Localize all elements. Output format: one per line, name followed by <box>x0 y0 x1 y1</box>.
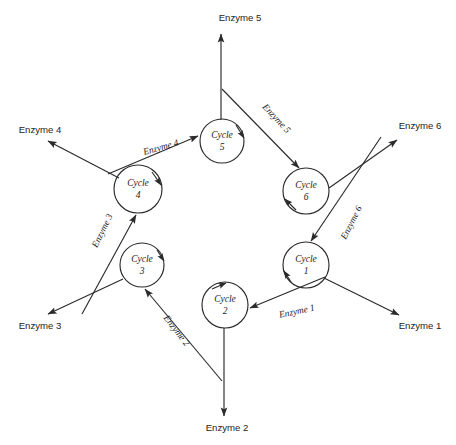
cycle2-label-line2: 2 <box>223 306 228 316</box>
endpoint-label-enzyme5: Enzyme 5 <box>219 12 262 23</box>
node-cycle4[interactable]: Cycle 4 <box>114 165 162 213</box>
cycle2-loop-arrow <box>212 283 226 289</box>
edge-label-enzyme5: Enzyme 5 <box>260 101 293 135</box>
edge-cycle1-to-enzyme1 <box>324 278 399 315</box>
edge-cycle1-to-cycle2 <box>250 277 325 308</box>
edge-label-enzyme1: Enzyme 1 <box>277 303 315 321</box>
cycle1-label-line1: Cycle <box>295 254 317 264</box>
edge-cycle3-to-cycle4 <box>82 215 136 314</box>
cycle3-loop-arrow <box>157 250 164 261</box>
cycle1-loop-arrow <box>284 271 291 282</box>
cycle3-label-line1: Cycle <box>131 254 153 264</box>
cycle6-label-line2: 6 <box>304 192 309 202</box>
cycle5-label-line2: 5 <box>220 142 225 152</box>
edge-label-enzyme4: Enzyme 4 <box>141 137 180 157</box>
cycle4-label-line2: 4 <box>136 190 141 200</box>
edge-label-enzyme6: Enzyme 6 <box>338 204 364 242</box>
cycle5-loop-arrow <box>236 125 244 138</box>
endpoint-labels-group: Enzyme 1 Enzyme 2 Enzyme 3 Enzyme 4 Enzy… <box>19 12 442 433</box>
endpoint-label-enzyme1: Enzyme 1 <box>399 320 442 331</box>
node-cycle1[interactable]: Cycle 1 <box>283 242 329 288</box>
edge-cycle4-to-cycle5 <box>108 136 198 174</box>
cycle2-circle[interactable] <box>202 282 248 328</box>
endpoint-label-enzyme4: Enzyme 4 <box>19 124 62 135</box>
cycle3-label-line2: 3 <box>139 266 145 276</box>
cycle4-label-line1: Cycle <box>127 178 149 188</box>
enzyme-cycle-diagram: Cycle 1 Cycle 2 Cycle 3 Cycle 4 <box>0 0 456 445</box>
cycle6-circle[interactable] <box>283 168 329 214</box>
cycle1-label-line2: 1 <box>304 266 309 276</box>
diagram-canvas: Cycle 1 Cycle 2 Cycle 3 Cycle 4 <box>0 0 456 445</box>
cycle5-label-line1: Cycle <box>211 130 233 140</box>
edge-label-enzyme2: Enzyme 2 <box>161 312 192 348</box>
endpoint-label-enzyme3: Enzyme 3 <box>19 320 62 331</box>
cycle2-label-line1: Cycle <box>214 294 236 304</box>
cycle6-label-line1: Cycle <box>295 180 317 190</box>
cycle4-circle[interactable] <box>114 165 162 213</box>
node-cycle5[interactable]: Cycle 5 <box>200 119 244 163</box>
node-cycle2[interactable]: Cycle 2 <box>202 282 248 328</box>
endpoint-label-enzyme2: Enzyme 2 <box>206 422 249 433</box>
node-cycle6[interactable]: Cycle 6 <box>283 168 329 214</box>
node-cycle3[interactable]: Cycle 3 <box>120 243 164 287</box>
endpoint-label-enzyme6: Enzyme 6 <box>399 120 442 131</box>
cycle3-circle[interactable] <box>120 243 164 287</box>
edge-cycle4-to-enzyme4 <box>48 141 119 178</box>
cycle5-circle[interactable] <box>200 119 244 163</box>
edge-label-enzyme3: Enzyme 3 <box>89 212 114 250</box>
